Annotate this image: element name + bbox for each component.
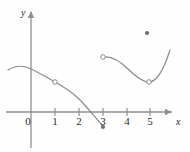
open-point-branch-right-at-5 — [147, 80, 152, 85]
open-endpoint-branch-right-at-3 — [101, 55, 106, 60]
open-point-branch-left-at-1 — [53, 80, 58, 85]
origin-label: 0 — [21, 116, 35, 127]
y-axis — [28, 11, 34, 148]
x-tick-label-2: 2 — [72, 116, 86, 127]
x-tick-label-4: 4 — [120, 116, 134, 127]
x-axis-arrow-icon — [165, 109, 172, 115]
y-axis-arrow-icon — [28, 11, 34, 18]
x-tick-label-3: 3 — [96, 116, 110, 127]
x-tick-label-1: 1 — [48, 116, 62, 127]
function-curves — [8, 50, 170, 126]
x-axis-label: x — [176, 117, 180, 127]
isolated-closed-point — [145, 31, 149, 35]
y-axis-label: y — [21, 8, 25, 18]
function-graph-figure: y x 0 12345 — [0, 0, 190, 152]
x-tick-label-5: 5 — [143, 116, 157, 127]
graph-canvas — [0, 0, 190, 152]
curve-branch-right — [103, 50, 170, 82]
